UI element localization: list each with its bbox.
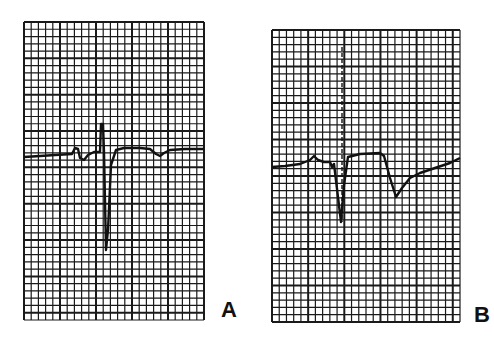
ecg-grid-b bbox=[0, 0, 494, 339]
ecg-panel-b bbox=[0, 0, 494, 339]
panel-label-b: B bbox=[474, 304, 490, 326]
panel-label-a: A bbox=[221, 299, 237, 321]
